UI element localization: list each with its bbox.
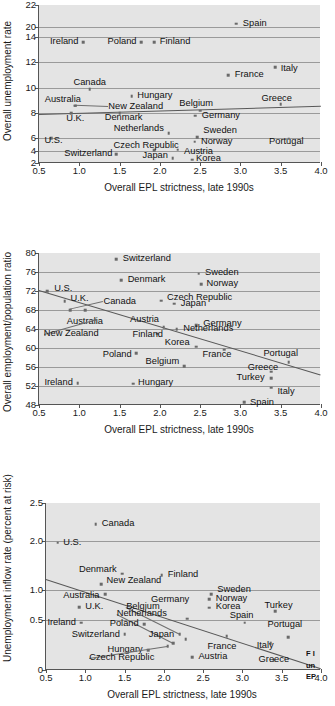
point-label: Belgium: [179, 99, 213, 108]
data-point[interactable]: [140, 41, 143, 44]
data-point[interactable]: [243, 622, 246, 625]
point-label: Japan: [149, 630, 174, 639]
data-point[interactable]: [100, 583, 103, 586]
y-tick-label: 20: [25, 22, 36, 32]
data-point[interactable]: [143, 623, 146, 626]
data-point[interactable]: [186, 617, 189, 620]
data-point[interactable]: [115, 153, 118, 156]
data-point[interactable]: [76, 382, 79, 385]
point-label: Greece: [261, 95, 292, 104]
data-point[interactable]: [195, 345, 198, 348]
y-tick-label: 76: [25, 267, 36, 277]
point-label: Japan: [143, 151, 168, 160]
data-point[interactable]: [200, 283, 203, 286]
data-point[interactable]: [178, 633, 181, 636]
chart2-plot-area: 8076726864605652480.51.01.52.02.53.03.54…: [38, 253, 320, 405]
data-point[interactable]: [46, 290, 49, 293]
data-point[interactable]: [94, 318, 97, 321]
chart-panel-unemployment-inflow-rate: Unemployment inflow rate (percent at ris…: [0, 470, 335, 706]
data-point[interactable]: [287, 636, 290, 639]
data-point[interactable]: [153, 41, 156, 44]
data-point[interactable]: [274, 66, 277, 69]
y-tick-label: 68: [25, 305, 36, 315]
data-point[interactable]: [185, 638, 188, 641]
chart3-y-axis-title: Unemployment inflow rate (percent at ris…: [2, 490, 14, 662]
data-point[interactable]: [88, 88, 91, 91]
data-point[interactable]: [123, 633, 126, 636]
point-label: Australia: [45, 95, 81, 104]
data-point[interactable]: [120, 279, 123, 282]
data-point[interactable]: [130, 95, 133, 98]
data-point[interactable]: [104, 593, 107, 596]
x-tick-label: 4.0: [314, 408, 327, 418]
data-point[interactable]: [56, 541, 59, 544]
point-label: Italy: [277, 387, 294, 396]
data-point[interactable]: [173, 303, 176, 306]
chart2-x-axis-title: Overall EPL strictness, late 1990s: [104, 424, 254, 435]
data-point[interactable]: [80, 622, 83, 625]
data-point[interactable]: [175, 328, 178, 331]
data-point[interactable]: [183, 365, 186, 368]
point-label: Denmark: [79, 566, 117, 575]
data-point[interactable]: [287, 361, 290, 364]
data-point[interactable]: [82, 41, 85, 44]
point-label: Austria: [198, 652, 227, 661]
point-label: Finland: [133, 330, 164, 339]
data-point[interactable]: [94, 523, 97, 526]
x-tick-label: 3.5: [275, 673, 288, 683]
point-label: Korea: [196, 154, 221, 163]
data-point[interactable]: [197, 273, 200, 276]
x-tick-label: 1.5: [118, 673, 131, 683]
point-label: Italy: [281, 64, 298, 73]
point-label: Italy: [257, 641, 274, 650]
data-point[interactable]: [160, 299, 163, 302]
data-point[interactable]: [243, 401, 246, 404]
data-point[interactable]: [78, 606, 81, 609]
y-tick-label: 6: [31, 133, 36, 143]
point-label: Korea: [165, 339, 190, 348]
data-point[interactable]: [135, 352, 138, 355]
caption-line: F I: [306, 648, 334, 660]
data-point[interactable]: [166, 645, 169, 648]
point-label: U.K.: [66, 114, 84, 123]
data-point[interactable]: [210, 593, 213, 596]
data-point[interactable]: [172, 642, 175, 645]
data-point[interactable]: [69, 309, 72, 312]
gridline: [39, 272, 320, 273]
point-label: France: [203, 350, 232, 359]
data-point[interactable]: [196, 136, 199, 139]
data-point[interactable]: [74, 104, 77, 107]
data-point[interactable]: [225, 635, 228, 638]
data-point[interactable]: [194, 114, 197, 117]
data-point[interactable]: [163, 326, 166, 329]
data-point[interactable]: [193, 140, 196, 143]
point-label: Denmark: [105, 113, 143, 122]
point-label: Sweden: [203, 126, 237, 135]
data-point[interactable]: [176, 149, 179, 152]
gridline: [39, 62, 320, 63]
data-point[interactable]: [270, 387, 273, 390]
data-point[interactable]: [191, 656, 194, 659]
data-point[interactable]: [191, 159, 194, 162]
x-tick-label: 2.0: [157, 673, 170, 683]
data-point[interactable]: [208, 598, 211, 601]
x-tick-label: 3.0: [234, 408, 247, 418]
data-point[interactable]: [63, 300, 66, 303]
y-tick-label: 60: [25, 343, 36, 353]
point-label: Turkey: [265, 601, 293, 610]
point-label: Norway: [207, 279, 239, 288]
data-point[interactable]: [208, 607, 211, 610]
data-point[interactable]: [115, 258, 118, 261]
y-tick-label: 10: [25, 83, 36, 93]
data-point[interactable]: [270, 377, 273, 380]
data-point[interactable]: [84, 309, 87, 312]
data-point[interactable]: [171, 157, 174, 160]
data-point[interactable]: [167, 132, 170, 135]
gridline: [46, 541, 320, 542]
point-label: Hungary: [138, 378, 173, 387]
gridline: [39, 27, 320, 28]
x-tick-label: 1.0: [73, 408, 86, 418]
data-point[interactable]: [235, 22, 238, 25]
data-point[interactable]: [227, 74, 230, 77]
data-point[interactable]: [132, 382, 135, 385]
